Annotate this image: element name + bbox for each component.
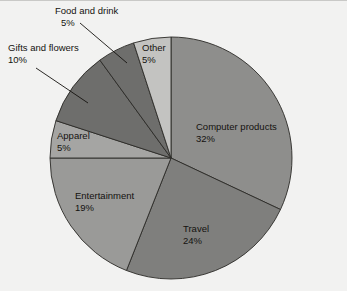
pie-label-value-apparel: 5% bbox=[57, 142, 71, 153]
pie-chart-figure: Computer products32%Travel24%Entertainme… bbox=[0, 0, 347, 291]
pie-label-name-travel: Travel bbox=[183, 223, 209, 234]
pie-label-name-apparel: Apparel bbox=[57, 130, 90, 141]
pie-label-value-computer-products: 32% bbox=[196, 133, 216, 144]
pie-label-name-food-and-drink: Food and drink bbox=[55, 5, 119, 16]
pie-label-value-entertainment: 19% bbox=[75, 202, 95, 213]
pie-label-name-other: Other bbox=[142, 42, 166, 53]
leader-line-food-and-drink bbox=[80, 23, 127, 63]
pie-label-value-travel: 24% bbox=[183, 235, 203, 246]
pie-label-name-entertainment: Entertainment bbox=[75, 190, 135, 201]
pie-chart-canvas: Computer products32%Travel24%Entertainme… bbox=[0, 1, 347, 291]
pie-label-name-computer-products: Computer products bbox=[196, 121, 277, 132]
pie-label-value-other: 5% bbox=[142, 54, 156, 65]
pie-label-name-gifts-and-flowers: Gifts and flowers bbox=[8, 42, 79, 53]
pie-label-value-gifts-and-flowers: 10% bbox=[8, 54, 28, 65]
pie-label-value-food-and-drink: 5% bbox=[61, 17, 75, 28]
pie-slices-group bbox=[50, 37, 292, 279]
